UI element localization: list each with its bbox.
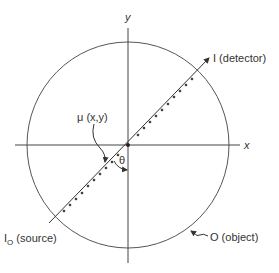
ray-line bbox=[49, 58, 209, 223]
source-label-rest: (source) bbox=[13, 232, 56, 244]
detector-label: I (detector) bbox=[213, 52, 266, 64]
attenuation-label: μ (x,y) bbox=[77, 111, 108, 123]
object-label: O (object) bbox=[210, 231, 258, 243]
y-axis-label: y bbox=[124, 11, 132, 23]
source-label: IO (source) bbox=[4, 232, 57, 247]
x-axis-label: x bbox=[243, 139, 250, 151]
attenuation-pointer bbox=[93, 124, 105, 162]
object-pointer bbox=[191, 231, 208, 236]
tomography-diagram: y x I (detector) μ (x,y) θ IO (source) O… bbox=[0, 0, 279, 273]
angle-label: θ bbox=[119, 154, 125, 166]
